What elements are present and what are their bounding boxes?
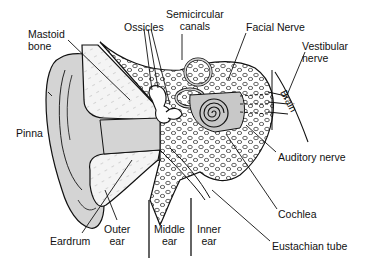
label-facial-nerve: Facial Nerve [246,21,305,33]
label-eustachian-tube: Eustachian tube [272,240,347,252]
label-cochlea: Cochlea [278,208,317,220]
label-middle-ear: Middle ear [154,223,185,247]
label-pinna: Pinna [16,127,43,139]
label-outer-ear: Outer ear [104,223,130,247]
label-auditory-nerve: Auditory nerve [278,151,346,163]
label-eardrum: Eardrum [50,235,90,247]
label-vestibular-nerve: Vestibular nerve [302,40,348,64]
label-mastoid-bone: Mastoid bone [28,28,65,52]
label-ossicles: Ossicles [124,21,164,33]
label-inner-ear: Inner ear [197,223,221,247]
label-semicircular-canals: Semicircular canals [166,8,224,32]
